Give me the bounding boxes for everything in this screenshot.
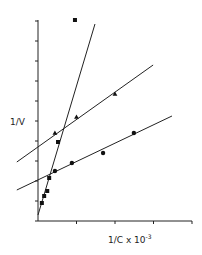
circle-marker: [70, 161, 74, 165]
triangle-marker: [74, 114, 79, 118]
x-axis-label: 1/C x 10-3: [108, 233, 152, 245]
circle-marker: [132, 131, 136, 135]
square-marker: [40, 201, 44, 205]
x-axis-label-text: 1/C x 10: [108, 235, 146, 245]
square-marker: [42, 194, 46, 198]
square-marker: [47, 176, 51, 180]
chart-canvas: [0, 0, 202, 255]
triangle-marker: [53, 130, 58, 134]
squares-fit-line: [38, 24, 95, 215]
square-marker: [73, 18, 77, 22]
axes: [35, 20, 192, 224]
square-marker: [45, 189, 49, 193]
circle-marker: [53, 169, 57, 173]
y-axis-label: 1/V: [10, 117, 25, 127]
triangles-fit-line: [17, 65, 153, 162]
x-axis-label-exponent: -3: [146, 233, 152, 240]
square-marker: [56, 140, 60, 144]
circle-marker: [101, 151, 105, 155]
circles-fit-line: [17, 116, 172, 190]
fit-lines: [17, 24, 172, 215]
